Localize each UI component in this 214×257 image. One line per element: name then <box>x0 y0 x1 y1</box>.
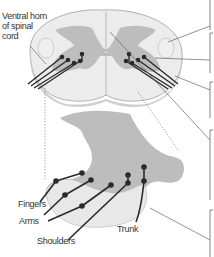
label-line: of spinal <box>2 21 47 31</box>
ventral-horn-enlarged <box>46 111 184 228</box>
label-arms: Arms <box>19 216 39 226</box>
label-shoulders: Shoulders <box>37 236 75 246</box>
label-ventral-horn: Ventral horn of spinal cord <box>2 11 47 41</box>
right-brackets <box>210 0 213 257</box>
label-fingers: Fingers <box>18 199 46 209</box>
label-line: cord <box>2 31 47 41</box>
label-line: Ventral horn <box>2 11 47 21</box>
label-trunk: Trunk <box>117 224 138 234</box>
